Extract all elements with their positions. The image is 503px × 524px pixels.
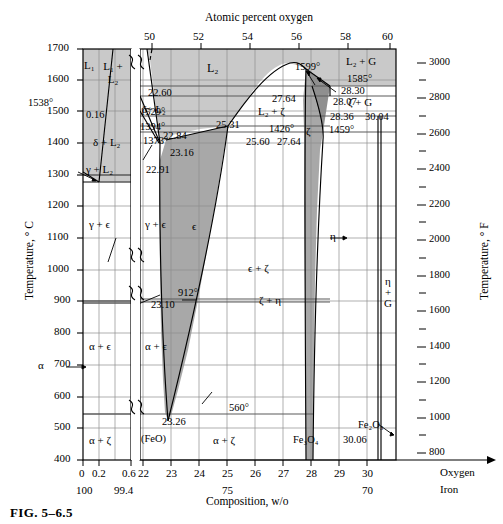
- compound-label-Fe2O3: Fe₂O₃: [358, 420, 383, 431]
- phase-label-eta-arrow: η: [330, 231, 336, 242]
- phase-label-zeta: ζ: [306, 126, 311, 137]
- annotation-0p16: 0.16: [86, 110, 104, 121]
- right-tick-1000: 1000: [429, 412, 450, 423]
- annotation-1529: 1529°: [140, 107, 165, 118]
- annotation-22p84: 22.84: [163, 131, 187, 142]
- annotation-1426: 1426°: [269, 124, 294, 135]
- bottom-tick-70: 70: [362, 485, 373, 496]
- phase-label-alpha-plus-zeta-left: α + ζ: [89, 435, 111, 446]
- bottom-tick-75: 75: [222, 485, 233, 496]
- right-tick-2000: 2000: [429, 234, 450, 245]
- phase-label-epsilon: ϵ: [192, 221, 196, 232]
- annotation-1585: 1585°: [347, 74, 372, 85]
- left-tick-1100: 1100: [47, 231, 69, 242]
- left-tick-1600: 1600: [47, 73, 69, 84]
- phase-label-gamma-plus-eps-main: γ + ϵ: [145, 219, 166, 230]
- bottom-tick-30: 30: [362, 468, 373, 479]
- bottom-tick-29: 29: [334, 468, 345, 479]
- bottom-tick-24: 24: [194, 468, 205, 479]
- right-tick-800: 800: [429, 447, 445, 458]
- phase-label-delta-plus-L2-left: δ + L₂: [93, 137, 120, 148]
- axis-end-label-oxygen: Oxygen: [440, 467, 475, 478]
- bottom-axis-title: Composition, w/o: [206, 496, 288, 508]
- annotation-1459: 1459°: [329, 125, 354, 136]
- left-tick-1000: 1000: [47, 263, 69, 274]
- bottom-tick-0: 0: [79, 468, 85, 479]
- left-tick-500: 500: [54, 421, 71, 432]
- phase-label-zeta-plus-eta: ζ + η: [259, 295, 281, 306]
- left-tick-700: 700: [54, 358, 71, 369]
- right-tick-1600: 1600: [429, 305, 450, 316]
- right-tick-1800: 1800: [429, 270, 450, 281]
- top-axis-ticks: [152, 43, 390, 49]
- annotation-23p10: 23.10: [151, 300, 175, 311]
- right-tick-2200: 2200: [429, 199, 450, 210]
- top-tick-56: 56: [291, 31, 302, 42]
- phase-label-gamma-plus-eps-left: γ + ϵ: [89, 219, 110, 230]
- bottom-axis-ticks: [83, 460, 367, 466]
- left-tick-400: 400: [54, 453, 71, 464]
- left-tick-1300: 1300: [47, 168, 69, 179]
- bottom-tick-23: 23: [166, 468, 177, 479]
- right-tick-2800: 2800: [429, 92, 450, 103]
- right-tick-2600: 2600: [429, 128, 450, 139]
- phase-label-L1-plus-L2: L₁ + L₂: [103, 60, 123, 85]
- top-tick-58: 58: [340, 31, 351, 42]
- bottom-tick-99p4: 99.4: [114, 485, 133, 496]
- phase-label-alpha-plus-eps-main: α + ϵ: [145, 341, 167, 352]
- left-axis-title: Temperature, ° C: [24, 221, 36, 300]
- phase-label-L2-plus-zeta: L₂ + ζ: [258, 106, 285, 117]
- annotation-22p91: 22.91: [146, 165, 170, 176]
- left-tick-900: 900: [54, 294, 71, 305]
- annotation-28p36: 28.36: [330, 112, 354, 123]
- phase-label-L1-left: L₁: [84, 60, 95, 71]
- bottom-tick-28: 28: [306, 468, 317, 479]
- annotation-25p31: 25.31: [216, 120, 240, 131]
- left-tick-800: 800: [54, 326, 71, 337]
- bottom-tick-0p2: 0.2: [92, 468, 106, 479]
- bottom-tick-25: 25: [222, 468, 233, 479]
- annotation-912: 912°: [178, 288, 198, 299]
- phase-label-alpha-plus-zeta-main: α + ζ: [213, 435, 235, 446]
- annotation-560: 560°: [229, 403, 249, 414]
- left-tick-600: 600: [54, 390, 71, 401]
- left-panel-invariant-lines: [83, 175, 131, 414]
- annotation-1538: 1538°: [28, 98, 53, 109]
- annotation-28p30: 28.30: [341, 86, 365, 97]
- phase-label-alpha-plus-eps-left: α + ϵ: [89, 341, 111, 352]
- bottom-tick-22: 22: [138, 468, 149, 479]
- phase-label-L2-plus-G: L₂ + G: [346, 56, 376, 67]
- right-tick-2400: 2400: [429, 163, 450, 174]
- annotation-30p04: 30.04: [365, 112, 389, 123]
- right-tick-1400: 1400: [429, 341, 450, 352]
- annotation-1394: 1394°: [140, 122, 165, 133]
- annotation-22p60: 22.60: [148, 88, 172, 99]
- phase-label-L2-main: L₂: [207, 62, 219, 74]
- right-tick-1200: 1200: [429, 376, 450, 387]
- right-tick-3000: 3000: [429, 57, 450, 68]
- left-axis-ticks: [77, 49, 83, 460]
- annotation-28p07: 28.07: [333, 97, 357, 108]
- compound-label-FeO: (FeO): [141, 434, 166, 445]
- figure-caption: FIG. 5–6.5: [10, 505, 73, 521]
- right-axis-title: Temperature, ° F: [479, 222, 491, 300]
- bottom-tick-0p6: 0.6: [122, 468, 136, 479]
- annotation-30p06: 30.06: [343, 435, 367, 446]
- annotation-23p16: 23.16: [170, 148, 194, 159]
- annotation-25p60: 25.60: [246, 137, 270, 148]
- left-tick-1200: 1200: [47, 199, 69, 210]
- top-axis-title: Atomic percent oxygen: [205, 12, 313, 24]
- top-tick-52: 52: [193, 31, 204, 42]
- bottom-tick-27: 27: [278, 468, 289, 479]
- phase-label-gamma-plus-L2-left: γ + L₂: [86, 164, 113, 175]
- annotation-1599: 1599°: [295, 62, 320, 73]
- bottom-tick-100: 100: [76, 485, 93, 496]
- right-axis-ticks: [417, 63, 426, 453]
- top-tick-60: 60: [382, 31, 393, 42]
- bottom-axis-arrow: [396, 456, 496, 464]
- axis-end-label-iron: Iron: [440, 484, 458, 495]
- annotation-27p64-upper: 27.64: [272, 94, 296, 105]
- top-tick-54: 54: [242, 31, 253, 42]
- annotation-23p26: 23.26: [162, 417, 186, 428]
- compound-label-Fe3O4: Fe₃O₄: [293, 435, 318, 446]
